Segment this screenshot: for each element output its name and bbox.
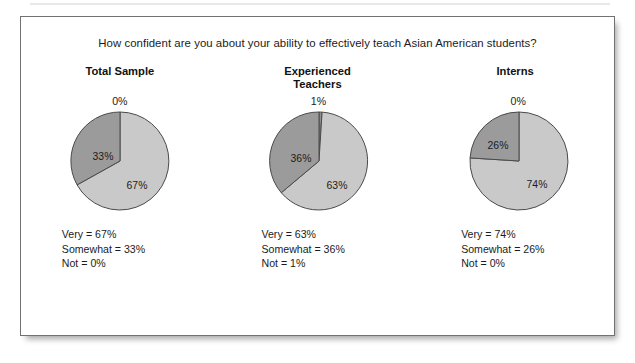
pie-value-label-somewhat: 26% [488,140,509,151]
chart-legend-experienced-teachers: Very = 63% Somewhat = 36% Not = 1% [261,227,379,271]
pie-slice-somewhat [470,112,519,161]
chart-panel-total-sample: Total Sample 0% 33% 67% Very = 67% Somew… [21,65,219,271]
legend-item-not: Not = 0% [62,256,180,271]
legend-item-very: Very = 67% [62,227,180,242]
pie-value-label-very: 63% [327,180,348,191]
legend-item-not: Not = 1% [261,256,379,271]
pie-top-label-total-sample: 0% [112,93,127,109]
legend-item-somewhat: Somewhat = 26% [461,242,579,257]
legend-item-somewhat: Somewhat = 36% [261,242,379,257]
pie-value-label-very: 67% [126,180,147,191]
legend-item-very: Very = 74% [461,227,579,242]
legend-item-somewhat: Somewhat = 33% [62,242,180,257]
pie-value-label-very: 74% [527,179,548,190]
chart-legend-interns: Very = 74% Somewhat = 26% Not = 0% [461,227,579,271]
chart-title-experienced-teachers: Experienced Teachers [284,65,351,93]
figure-question-title: How confident are you about your ability… [21,37,614,49]
pie-value-label-somewhat: 36% [291,153,312,164]
chart-title-interns: Interns [496,65,533,93]
chart-title-line-1: Interns [496,65,533,78]
chart-title-line-2: Teachers [284,78,351,91]
chart-panel-interns: Interns 0% 26% 74% Very = 74% Somewhat =… [416,65,614,271]
pie-chart-experienced-teachers: 36% 63% [267,109,371,213]
pie-svg-total-sample: 33% 67% [68,109,172,213]
legend-item-very: Very = 63% [261,227,379,242]
page-top-rule [30,3,610,5]
pie-chart-total-sample: 33% 67% [68,109,172,213]
chart-title-line-1: Total Sample [85,65,154,78]
pie-top-label-interns: 0% [510,93,525,109]
chart-panel-experienced-teachers: Experienced Teachers 1% 36% 63% Very = 6… [219,65,417,271]
figure-frame: How confident are you about your ability… [20,16,615,336]
pie-svg-interns: 26% 74% [467,109,571,213]
pie-svg-experienced-teachers: 36% 63% [267,109,371,213]
chart-legend-total-sample: Very = 67% Somewhat = 33% Not = 0% [62,227,180,271]
pie-top-label-experienced-teachers: 1% [311,93,326,109]
chart-title-line-1: Experienced [284,65,351,78]
pie-value-label-somewhat: 33% [92,151,113,162]
chart-title-total-sample: Total Sample [85,65,154,93]
pie-chart-panels: Total Sample 0% 33% 67% Very = 67% Somew… [21,65,614,271]
legend-item-not: Not = 0% [461,256,579,271]
pie-chart-interns: 26% 74% [467,109,571,213]
